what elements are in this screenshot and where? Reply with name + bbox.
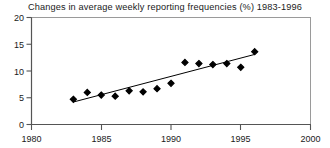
data-point-marker xyxy=(238,64,244,70)
data-point-marker xyxy=(140,89,146,95)
plot-frame xyxy=(31,18,311,125)
chart-figure: Changes in average weekly reporting freq… xyxy=(0,0,330,148)
y-axis-ticks xyxy=(27,18,32,125)
data-point-marker xyxy=(98,92,104,98)
data-point-marker xyxy=(252,49,258,55)
data-point-marker xyxy=(84,89,90,95)
y-tick-label-15: 15 xyxy=(14,40,24,50)
data-point-marker xyxy=(196,60,202,66)
x-tick-label-2000: 2000 xyxy=(300,134,320,144)
x-tick-label-1980: 1980 xyxy=(21,134,41,144)
data-point-marker xyxy=(112,93,118,99)
y-tick-label-20: 20 xyxy=(14,13,24,23)
data-point-marker xyxy=(126,88,132,94)
x-axis-ticks xyxy=(32,125,311,131)
y-tick-label-5: 5 xyxy=(19,93,24,103)
y-tick-label-10: 10 xyxy=(14,67,24,77)
chart-plot-area: 20 15 10 5 0 1980 1985 1990 1995 2000 xyxy=(0,0,330,148)
y-axis-labels: 20 15 10 5 0 xyxy=(14,13,24,130)
data-series-layer xyxy=(70,49,258,103)
y-tick-label-0: 0 xyxy=(19,120,24,130)
x-axis-labels: 1980 1985 1990 1995 2000 xyxy=(21,134,320,144)
data-point-marker xyxy=(210,61,216,67)
data-point-marker xyxy=(182,59,188,65)
x-tick-label-1985: 1985 xyxy=(91,134,111,144)
data-point-marker xyxy=(168,80,174,86)
x-tick-label-1995: 1995 xyxy=(230,134,250,144)
data-point-marker xyxy=(154,86,160,92)
x-tick-label-1990: 1990 xyxy=(161,134,181,144)
